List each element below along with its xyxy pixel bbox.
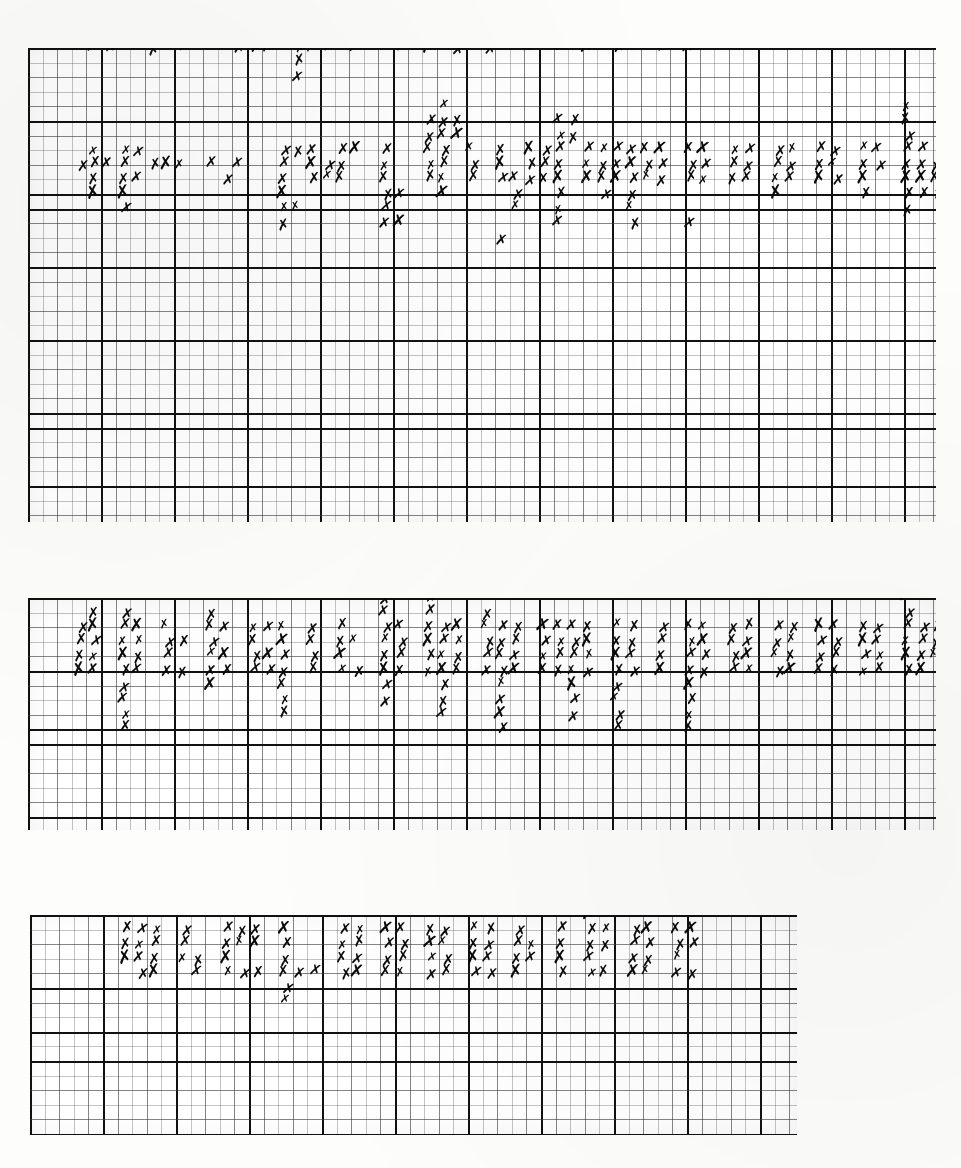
tally-mark-x: ✗: [682, 918, 699, 938]
tally-mark-x: ✗: [520, 138, 537, 158]
tally-mark-x: ✗: [486, 967, 499, 982]
tally-mark-x: ✗: [788, 621, 801, 637]
grid-major-vline: [101, 48, 103, 522]
tally-mark-x: ✗: [180, 923, 194, 939]
tally-mark-x: ✗: [248, 922, 262, 938]
tally-mark-x: ✗: [396, 635, 410, 651]
tally-mark-x: ✗: [525, 938, 537, 952]
grid-major-vline: [831, 48, 833, 522]
tally-mark-x: ✗: [700, 648, 713, 663]
tally-mark-x: ✗: [354, 923, 365, 936]
tally-mark-x: ✗: [117, 635, 127, 647]
grid-minor-vline: [408, 48, 409, 522]
tally-mark-x: ✗: [553, 48, 567, 54]
tally-mark-x: ✗: [900, 203, 915, 220]
tally-mark-x: ✗: [859, 140, 870, 153]
graph-paper-grid-1: [28, 48, 936, 522]
tally-mark-x: ✗: [434, 660, 449, 678]
tally-mark-x: ✗: [774, 144, 787, 159]
tally-mark-x: ✗: [422, 620, 435, 635]
tally-mark-x: ✗: [121, 144, 132, 157]
tally-mark-x: ✗: [730, 144, 740, 156]
tally-mark-x: ✗: [537, 172, 550, 188]
tally-mark-x: ✗: [655, 174, 668, 189]
grid-minor-vline: [481, 48, 482, 522]
tally-mark-x: ✗: [599, 142, 609, 154]
grid-minor-vline: [495, 48, 496, 522]
tally-mark-x: ✗: [321, 48, 336, 54]
tally-mark-x: ✗: [174, 158, 184, 170]
grid-minor-vline: [262, 48, 263, 522]
tally-mark-x: ✗: [506, 170, 520, 186]
tally-mark-x: ✗: [484, 921, 499, 938]
tally-mark-x: ✗: [482, 938, 497, 955]
tally-mark-x: ✗: [583, 938, 598, 955]
grid-minor-vline: [189, 48, 190, 522]
chart-panel-2: ✗✗✗✗✗✗✗✗✗✗✗✗✗✗✗✗✗✗✗✗✗✗✗✗✗✗✗✗✗✗✗✗✗✗✗✗✗✗✗✗…: [28, 598, 936, 830]
grid-minor-vline: [745, 915, 746, 1135]
tally-mark-x: ✗: [347, 139, 363, 158]
grid-minor-vline: [378, 48, 379, 522]
grid-minor-vline: [670, 48, 671, 522]
tally-mark-x: ✗: [626, 189, 639, 205]
grid-major-vline: [176, 915, 178, 1135]
tally-mark-x: ✗: [918, 620, 933, 637]
tally-mark-x: ✗: [481, 607, 494, 623]
tally-mark-x: ✗: [900, 635, 910, 647]
tally-mark-x: ✗: [205, 155, 218, 170]
grid-minor-vline: [787, 48, 788, 522]
tally-mark-x: ✗: [394, 48, 408, 54]
tally-mark-x: ✗: [624, 142, 639, 159]
grid-major-vline: [320, 598, 322, 830]
tally-mark-x: ✗: [857, 158, 870, 173]
grid-minor-vline: [860, 48, 861, 522]
tally-mark-x: ✗: [464, 141, 475, 154]
tally-mark-x: ✗: [585, 921, 599, 937]
grid-major-vline: [174, 48, 176, 522]
grid-minor-vline: [714, 48, 715, 522]
tally-mark-x: ✗: [612, 617, 623, 630]
tally-mark-x: ✗: [784, 159, 799, 176]
tally-mark-x: ✗: [350, 951, 365, 968]
tally-mark-x: ✗: [610, 635, 623, 650]
grid-minor-hline: [30, 1003, 797, 1004]
tally-mark-x: ✗: [698, 174, 709, 187]
grid-minor-vline: [232, 48, 233, 522]
grid-major-vline: [685, 48, 687, 522]
grid-minor-hline: [30, 1105, 797, 1106]
grid-minor-hline: [30, 1119, 797, 1120]
tally-mark-x: ✗: [147, 951, 161, 967]
grid-minor-hline: [28, 150, 936, 151]
grid-minor-hline: [28, 179, 936, 180]
tally-mark-x: ✗: [451, 651, 465, 667]
tally-mark-x: ✗: [554, 937, 567, 952]
grid-major-hline: [28, 48, 936, 50]
grid-minor-hline: [28, 311, 936, 312]
grid-minor-vline: [846, 48, 847, 522]
tally-mark-x: ✗: [292, 966, 306, 982]
grid-minor-vline: [364, 48, 365, 522]
grid-major-hline: [28, 598, 936, 600]
tally-mark-x: ✗: [657, 620, 672, 637]
grid-minor-vline: [72, 598, 73, 830]
tally-mark-x: ✗: [783, 648, 798, 665]
grid-minor-hline: [28, 136, 936, 137]
grid-minor-vline: [570, 915, 571, 1135]
tally-mark-x: ✗: [479, 663, 493, 679]
grid-minor-hline: [28, 238, 936, 239]
tally-mark-x: ✗: [566, 709, 580, 725]
grid-major-vline: [466, 598, 468, 830]
tally-mark-x: ✗: [425, 598, 437, 605]
grid-minor-vline: [597, 598, 598, 830]
grid-minor-vline: [641, 48, 642, 522]
tally-mark-x: ✗: [856, 620, 870, 636]
grid-minor-vline: [218, 48, 219, 522]
tally-mark-x: ✗: [815, 140, 828, 155]
tally-mark-x: ✗: [391, 617, 406, 634]
tally-mark-x: ✗: [628, 664, 642, 680]
grid-major-hline: [28, 486, 936, 488]
tally-mark-x: ✗: [442, 953, 455, 968]
tally-mark-x: ✗: [251, 965, 265, 981]
tally-mark-x: ✗: [859, 185, 874, 202]
grid-minor-vline: [88, 915, 89, 1135]
